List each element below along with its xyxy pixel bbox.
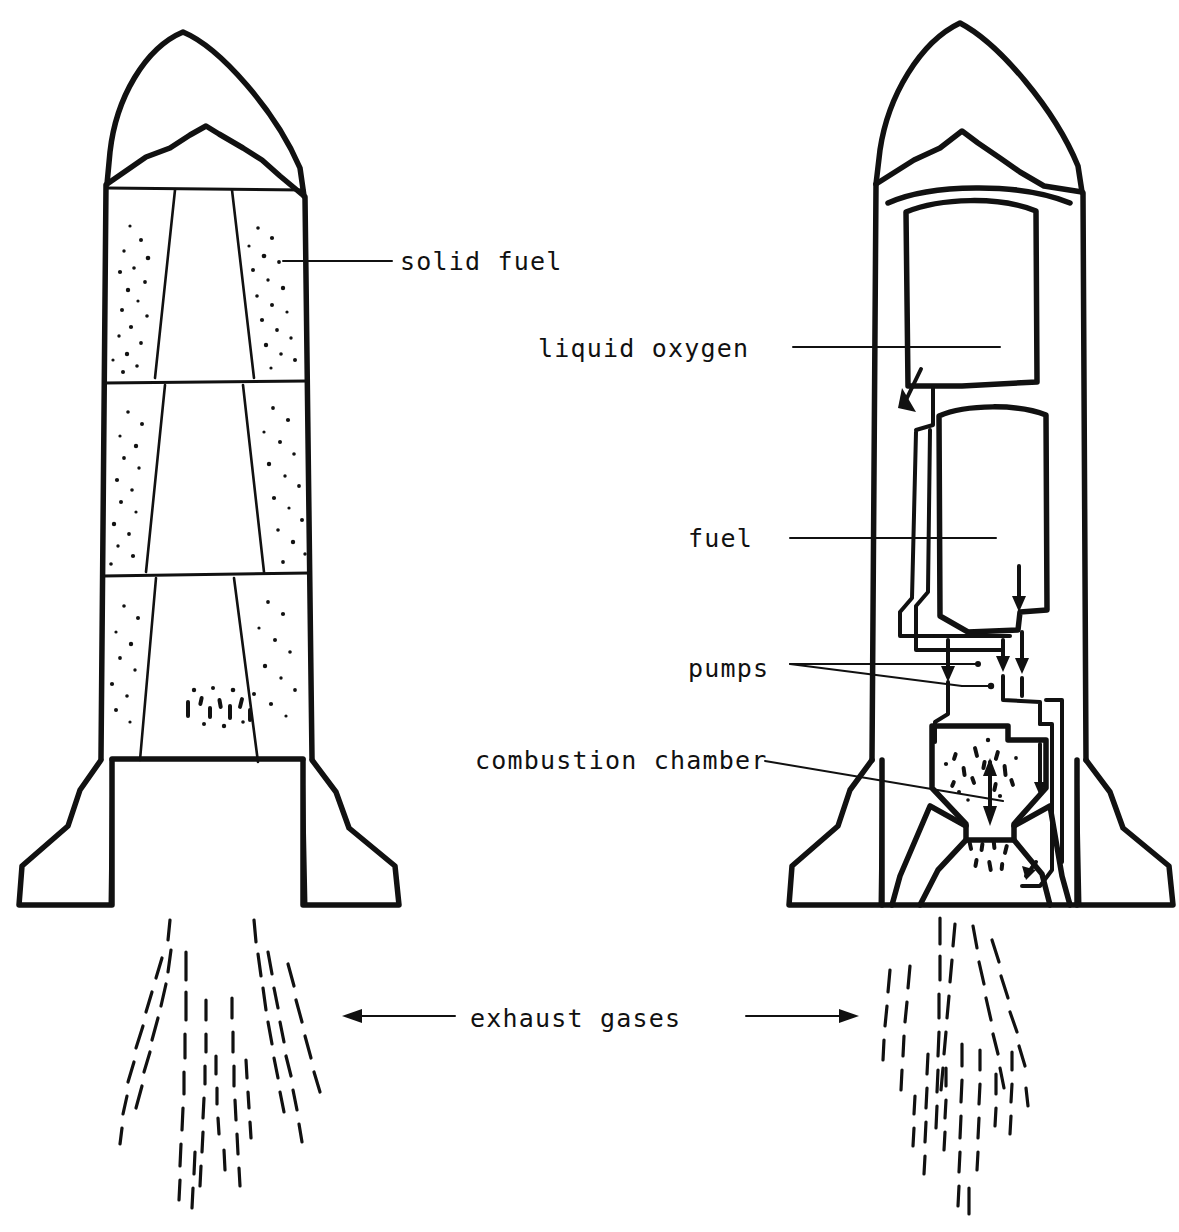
pumps-label: pumps [688,654,769,683]
combustion-chamber-label: combustion chamber [475,746,768,775]
label-liquid-oxygen: liquid oxygen [538,334,1000,363]
left-rocket-right-fin [303,760,399,905]
left-rocket-left-fin [19,760,112,905]
left-rocket-stage-1 [155,190,254,378]
rocket-diagram: solid fuel liquid oxygen fuel pumps comb… [0,0,1179,1232]
nozzle [892,806,1070,905]
left-rocket-ignition-marks [186,686,256,728]
right-rocket-left-fin [789,760,882,905]
liquid-oxygen-tank [906,201,1037,386]
fuel-label: fuel [688,524,753,553]
nozzle-throat-spray [967,838,1009,873]
left-rocket-exhaust-plume [120,920,320,1208]
left-rocket [19,32,399,1208]
right-rocket-exhaust-plume [883,918,1028,1214]
pumps-leader-b [790,664,962,686]
combustion-chamber [932,726,1046,840]
label-pumps: pumps [688,654,977,686]
liquid-oxygen-label: liquid oxygen [538,334,749,363]
exhaust-arrow-right [746,1009,859,1023]
left-rocket-nose-cone [107,32,304,196]
left-rocket-stage-2 [146,385,264,572]
exhaust-gases-label: exhaust gases [470,1004,681,1033]
fuel-tank [939,407,1047,632]
left-rocket-stage-3 [140,578,258,762]
exhaust-arrow-left [342,1009,455,1023]
solid-fuel-label: solid fuel [400,247,563,276]
right-rocket-nose-cone [876,23,1082,203]
left-rocket-body [101,185,312,758]
right-rocket [789,23,1173,1214]
right-rocket-right-fin [1077,760,1173,905]
label-solid-fuel: solid fuel [283,247,563,276]
label-combustion-chamber: combustion chamber [475,746,1003,801]
rocket-diagram-svg: solid fuel liquid oxygen fuel pumps comb… [0,0,1179,1232]
label-fuel: fuel [688,524,996,553]
left-rocket-solid-fuel-stipple [109,224,306,723]
label-exhaust-gases: exhaust gases [342,1004,859,1033]
oxygen-feed-pipe [898,369,933,430]
